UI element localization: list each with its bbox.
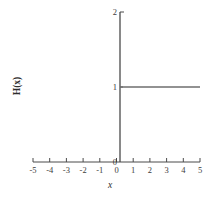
xtick-label--4: -4 [42, 166, 58, 175]
x-axis-label: x [100, 180, 120, 190]
xtick-label-1: 1 [125, 166, 141, 175]
xtick-label--2: -2 [75, 166, 91, 175]
xtick-label--5: -5 [25, 166, 41, 175]
ytick-label-2: 2 [107, 8, 117, 17]
y-axis-label: H(x) [12, 61, 22, 111]
xtick-label--3: -3 [58, 166, 74, 175]
xtick-label-3: 3 [159, 166, 175, 175]
xtick-label-2: 2 [142, 166, 158, 175]
heaviside-step-function-plot: -5 -4 -3 -2 -1 0 1 2 3 4 5 0 1 2 H(x) x [0, 0, 210, 201]
xtick-label-0: 0 [109, 166, 125, 175]
xtick-label-4: 4 [175, 166, 191, 175]
xtick-label--1: -1 [92, 166, 108, 175]
ytick-label-1: 1 [107, 83, 117, 92]
xtick-label-5: 5 [192, 166, 208, 175]
ytick-label-0: 0 [107, 158, 117, 167]
